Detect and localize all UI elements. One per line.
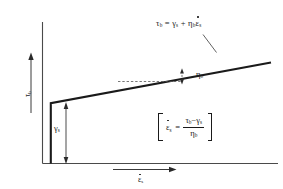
overdot-mark <box>139 174 141 176</box>
y-axis-label-sub: b <box>27 91 32 93</box>
boxed-equation-equals: = <box>175 122 180 132</box>
boxed-equation-fraction: τb−γs ηb <box>183 116 204 138</box>
slope-label-symbol: ηb <box>196 69 203 79</box>
yield-stress-sub: s <box>58 127 60 133</box>
boxed-equation: εs = τb−γs ηb <box>158 113 212 141</box>
fraction-numerator: τb−γs <box>183 116 204 126</box>
y-axis-direction-arrow <box>28 53 33 114</box>
fraction-denominator: ηb <box>188 129 199 139</box>
numerator-term-b: γs <box>196 115 202 125</box>
x-axis-label-sub: s <box>141 179 143 184</box>
main-equation-term2: ηb <box>188 18 196 28</box>
slope-label: ηb <box>196 70 203 79</box>
equation-leader-line <box>203 35 217 53</box>
yield-stress-indicator <box>64 102 69 164</box>
main-equation-label: τb = γs + ηbεs <box>156 19 202 28</box>
numerator-term-a-sub: b <box>189 119 192 125</box>
main-equation-equals: = <box>165 18 170 28</box>
overdot-mark <box>167 120 169 122</box>
overdot-mark <box>197 16 199 18</box>
main-equation-term1-sub: s <box>176 22 178 28</box>
main-equation-lhs-sub: b <box>160 22 163 28</box>
main-equation-lhs: τb <box>156 18 162 28</box>
x-axis-label-symbol: εs <box>138 176 143 184</box>
x-axis-direction-arrow <box>113 167 177 172</box>
figure-canvas <box>0 0 283 189</box>
slope-label-sub: b <box>200 73 203 79</box>
main-equation-term1: γs <box>172 18 178 28</box>
yield-stress-symbol: γs <box>54 123 60 133</box>
main-equation-term3-sub: s <box>199 22 201 28</box>
main-equation-term3: εs <box>196 19 202 28</box>
bingham-plastic-figure: τb = γs + ηbεs ηb γs τb εs εs = τb−γs ηb <box>0 0 283 189</box>
yield-stress-label: γs <box>54 124 60 133</box>
boxed-equation-lhs: εs <box>166 122 172 132</box>
bracket-right <box>208 113 213 141</box>
slope-indicator <box>118 68 184 84</box>
main-equation-plus: + <box>181 18 186 28</box>
y-axis-label: τb <box>24 91 32 97</box>
x-axis-label: εs <box>138 176 143 184</box>
y-axis-label-symbol: τb <box>23 91 32 97</box>
boxed-equation-content: εs = τb−γs ηb <box>163 113 208 141</box>
boxed-equation-lhs-sub: s <box>170 127 172 133</box>
denominator-sub: b <box>195 132 198 138</box>
numerator-term-b-sub: s <box>200 119 202 125</box>
